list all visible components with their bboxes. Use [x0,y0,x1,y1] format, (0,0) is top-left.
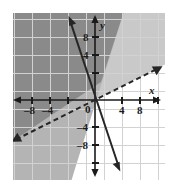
x-tick-label-8: 8 [137,105,143,116]
y-tick-label--4: –4 [77,122,88,133]
x-tick-label-4: 4 [119,105,125,116]
graph-figure: –8 –4 0 4 8 8 4 –4 –8 x y [0,0,177,191]
x-axis-name: x [149,85,155,96]
x-tick-label--8: –8 [24,105,35,116]
coordinate-plane: –8 –4 0 4 8 8 4 –4 –8 x y [13,13,165,180]
origin-label: 0 [85,104,91,115]
y-axis-name: y [100,20,105,31]
x-tick-label--4: –4 [42,105,53,116]
y-tick-label--8: –8 [77,140,88,151]
y-tick-label-8: 8 [83,32,89,43]
y-tick-label-4: 4 [83,50,89,61]
graph-svg [13,13,165,180]
